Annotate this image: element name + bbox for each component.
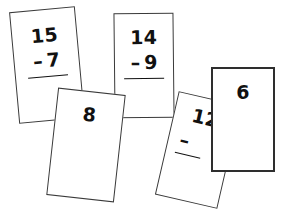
flash-card-answer-8[interactable]: 8	[46, 88, 125, 203]
card-subtrahend: 9	[144, 53, 157, 72]
flash-card-answer-6[interactable]: 6	[211, 67, 275, 172]
card-subtrahend: 7	[46, 50, 61, 70]
card-answer: 6	[213, 81, 273, 103]
flash-card-scene: 15 – 7 14 – 9 12 – 8 6	[0, 0, 286, 215]
card-answer: 8	[55, 100, 123, 129]
minus-sign-icon: –	[32, 51, 43, 71]
answer-rule-line	[28, 74, 68, 79]
card-subtrahend-row: – 7	[20, 49, 74, 73]
answer-rule-line	[124, 78, 164, 79]
card-subtrahend-row: – 9	[119, 53, 169, 73]
minus-sign-icon: –	[178, 130, 192, 151]
card-minuend: 15	[11, 21, 77, 49]
card-minuend: 14	[115, 26, 173, 49]
minus-sign-icon: –	[130, 53, 140, 72]
